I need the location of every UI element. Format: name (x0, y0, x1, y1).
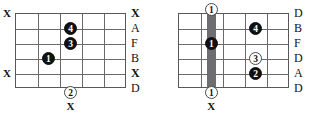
string-line-5 (16, 74, 125, 75)
fret-line-4 (104, 14, 105, 87)
string-label-3: F (131, 37, 138, 49)
fret-line-4 (267, 14, 268, 87)
string-label-4: B (131, 52, 139, 64)
mute-mark-string-5: X (1, 68, 13, 79)
fretboard-grid (178, 13, 289, 88)
string-line-3 (179, 44, 288, 45)
finger-dot-4: 4 (249, 22, 262, 35)
string-label-5: A (294, 67, 303, 79)
barre-dot-middle: 1 (205, 37, 218, 50)
fret-line-2 (60, 14, 61, 87)
chord-diagram-right: 111432XDBFDAD (160, 0, 320, 121)
mute-mark-below: X (65, 101, 77, 112)
barre-dot-top: 1 (205, 3, 218, 16)
barre-dot-bottom: 1 (205, 86, 218, 99)
mute-mark-string-1: X (1, 8, 13, 19)
string-line-4 (179, 59, 288, 60)
string-label-2: B (294, 22, 302, 34)
fret-line-3 (82, 14, 83, 87)
finger-dot-2: 2 (249, 67, 262, 80)
finger-dot-1: 1 (42, 52, 55, 65)
finger-dot-4: 4 (64, 22, 77, 35)
string-line-2 (179, 29, 288, 30)
fret-line-3 (245, 14, 246, 87)
string-label-1: D (294, 7, 303, 19)
string-label-5: X (131, 67, 140, 79)
string-label-4: D (294, 52, 303, 64)
string-label-6: D (131, 82, 140, 94)
string-line-5 (179, 74, 288, 75)
fret-line-1 (201, 14, 202, 87)
chord-diagram-left: 4312XXXXAFBXD (0, 0, 160, 121)
string-label-1: X (131, 7, 140, 19)
mute-mark-below: X (205, 101, 217, 112)
barre-bar (207, 9, 216, 92)
string-line-4 (16, 59, 125, 60)
finger-dot-3: 3 (64, 37, 77, 50)
finger-dot-3: 3 (249, 52, 262, 65)
fret-line-2 (223, 14, 224, 87)
finger-dot-2-below: 2 (64, 86, 77, 99)
chord-chart-page: 4312XXXXAFBXD 111432XDBFDAD (0, 0, 320, 121)
string-label-6: D (294, 82, 303, 94)
fret-line-1 (38, 14, 39, 87)
string-label-2: A (131, 22, 140, 34)
string-label-3: F (294, 37, 301, 49)
